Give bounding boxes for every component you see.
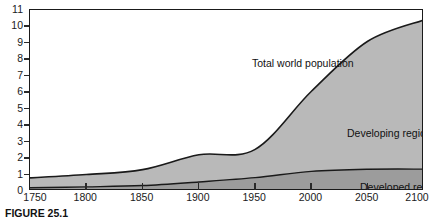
x-tick-mark bbox=[310, 183, 312, 190]
y-tick-label: 3 bbox=[17, 136, 23, 146]
y-axis: 01234567891011 bbox=[0, 0, 29, 200]
y-tick-label: 0 bbox=[17, 185, 23, 195]
y-tick-label: 11 bbox=[12, 4, 23, 14]
x-tick-label: 2100 bbox=[405, 192, 428, 203]
y-tick-label: 1 bbox=[17, 169, 23, 179]
x-tick-label: 1900 bbox=[186, 192, 209, 203]
area-developing bbox=[30, 20, 423, 190]
x-tick-label: 1750 bbox=[23, 192, 46, 203]
series-label-total: Total world population bbox=[252, 57, 354, 69]
y-tick-label: 7 bbox=[17, 70, 23, 80]
series-label-developed: Developed regions bbox=[360, 181, 423, 190]
y-tick-label: 8 bbox=[17, 53, 23, 63]
x-tick-mark bbox=[254, 183, 256, 190]
y-tick-label: 10 bbox=[11, 20, 23, 30]
x-tick-label: 2000 bbox=[299, 192, 322, 203]
x-tick-mark bbox=[198, 183, 200, 190]
y-tick-label: 2 bbox=[17, 152, 23, 162]
x-tick-mark bbox=[85, 183, 87, 190]
plot-area: Total world population Developing region… bbox=[29, 9, 423, 190]
y-tick-label: 9 bbox=[17, 37, 23, 47]
x-tick-label: 2050 bbox=[355, 192, 378, 203]
figure-caption: FIGURE 25.1 bbox=[5, 207, 68, 219]
x-tick-label: 1850 bbox=[130, 192, 153, 203]
stacked-area-chart bbox=[30, 10, 423, 190]
y-tick-label: 4 bbox=[17, 119, 23, 129]
y-tick-label: 5 bbox=[17, 103, 23, 113]
x-tick-mark bbox=[367, 183, 369, 190]
x-tick-label: 1950 bbox=[242, 192, 265, 203]
series-label-developing: Developing regions bbox=[347, 127, 423, 139]
figure-world-population: 01234567891011 Total world population De… bbox=[0, 0, 445, 219]
x-tick-label: 1800 bbox=[74, 192, 97, 203]
y-tick-label: 6 bbox=[17, 86, 23, 96]
x-tick-mark bbox=[142, 183, 144, 190]
